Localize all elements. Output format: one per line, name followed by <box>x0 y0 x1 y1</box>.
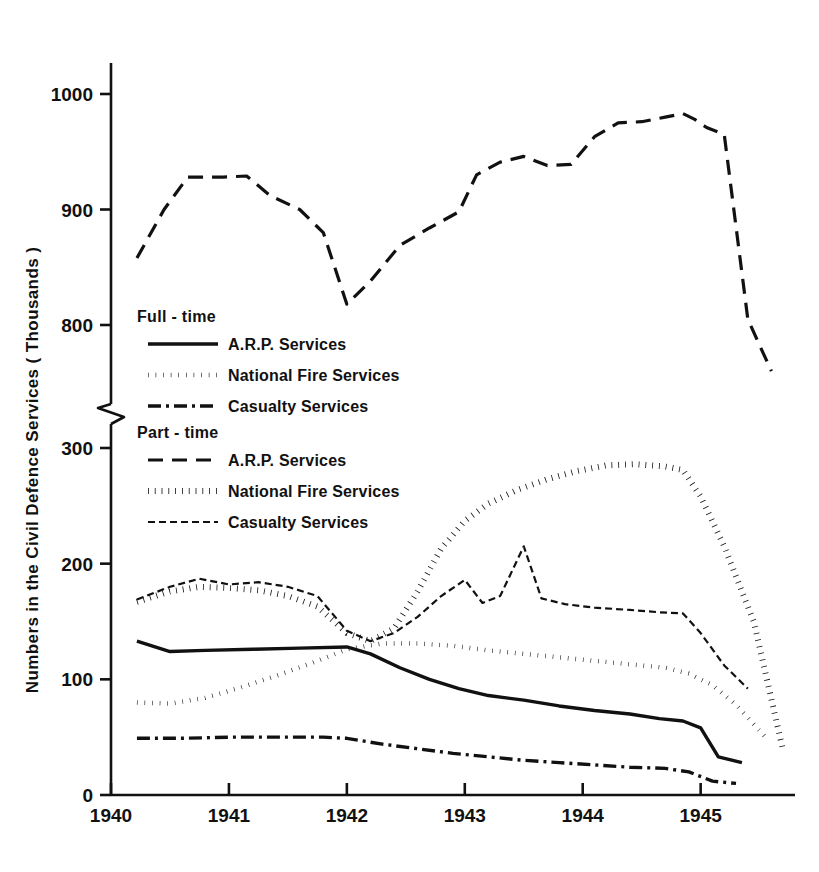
civil-defence-services-line-chart: 80090010000100200300 1940194119421943194… <box>0 0 819 872</box>
x-tick-label: 1945 <box>680 805 723 826</box>
legend-item-label: Casualty Services <box>228 514 368 531</box>
legend-item-label: A.R.P. Services <box>228 452 346 469</box>
x-tick-label: 1941 <box>208 805 251 826</box>
x-tick-label: 1944 <box>562 805 605 826</box>
y-tick-label: 100 <box>61 669 93 690</box>
y-tick-label: 200 <box>61 554 93 575</box>
x-tick-label: 1940 <box>90 805 132 826</box>
y-axis-title: Numbers in the Civil Defence Services ( … <box>23 247 42 693</box>
y-tick-label: 0 <box>82 785 93 806</box>
x-tick-label: 1942 <box>326 805 368 826</box>
legend-item-label: A.R.P. Services <box>228 336 346 353</box>
legend-heading-part-time: Part - time <box>137 424 219 441</box>
y-tick-label: 800 <box>61 315 93 336</box>
y-tick-label: 300 <box>61 438 93 459</box>
legend-heading-full-time: Full - time <box>137 308 216 325</box>
chart-background <box>0 0 819 872</box>
legend-item-label: Casualty Services <box>228 398 368 415</box>
legend-item-label: National Fire Services <box>228 367 400 384</box>
legend-item-label: National Fire Services <box>228 483 400 500</box>
y-tick-label: 1000 <box>51 84 93 105</box>
x-tick-label: 1943 <box>444 805 486 826</box>
y-tick-label: 900 <box>61 200 93 221</box>
chart-figure: 80090010000100200300 1940194119421943194… <box>0 0 819 872</box>
